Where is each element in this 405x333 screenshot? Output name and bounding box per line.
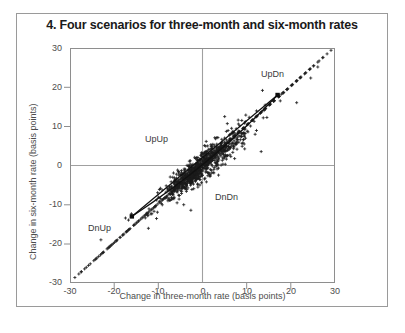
- figure-title: 4. Four scenarios for three-month and si…: [16, 18, 388, 32]
- plot-frame: [70, 48, 335, 283]
- plot-area: [70, 48, 335, 283]
- x-axis-label: Change in three-month rate (basis points…: [0, 291, 405, 301]
- y-axis-label: Change in six-month rate (basis points): [28, 103, 38, 260]
- figure-panel: 4. Four scenarios for three-month and si…: [0, 0, 405, 333]
